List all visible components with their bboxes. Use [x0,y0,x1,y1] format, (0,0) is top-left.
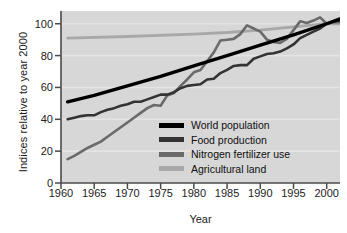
legend-label-food-production: Food production [191,134,267,146]
x-axis-title: Year [61,213,340,225]
legend-swatch-food-production [159,137,184,142]
legend-swatch-nitrogen-fertilizer-use [159,152,184,157]
y-axis-title: Indices relative to year 2000 [17,17,29,187]
chart-figure: 020406080100 196019651970197519801985199… [0,0,347,233]
legend-label-nitrogen-fertilizer-use: Nitrogen fertilizer use [191,148,290,160]
legend-label-agricultural-land: Agricultural land [191,163,266,175]
legend-item: Food production [159,133,290,148]
legend-swatch-agricultural-land [159,166,184,171]
legend-label-world-population: World population [191,119,270,131]
legend-item: Agricultural land [159,162,290,177]
legend-swatch-world-population [159,123,184,129]
legend-item: Nitrogen fertilizer use [159,147,290,162]
x-tick-labels: 196019651970197519801985199019952000 [0,0,347,233]
legend-item: World population [159,118,290,133]
chart-legend: World population Food production Nitroge… [159,118,290,176]
x-tick-label: 2000 [307,187,347,199]
